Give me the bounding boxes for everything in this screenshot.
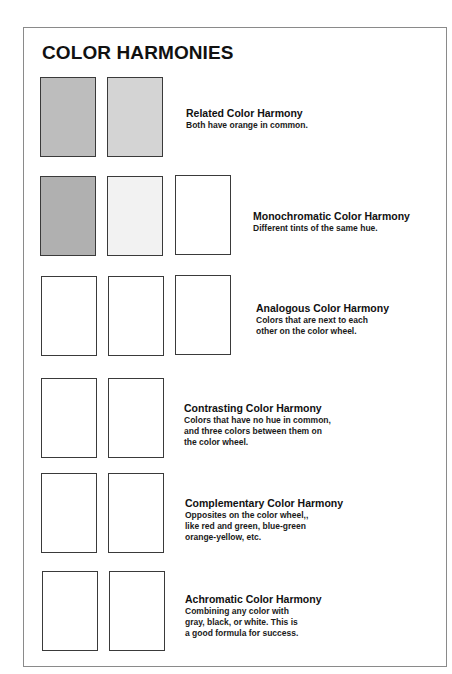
section-text: a good formula for success. [185, 628, 322, 639]
section-heading: Contrasting Color Harmony [184, 401, 331, 415]
caption: Related Color Harmony Both have orange i… [186, 106, 308, 131]
page-title: COLOR HARMONIES [42, 42, 234, 64]
section-text: the color wheel. [184, 437, 331, 448]
caption: Achromatic Color Harmony Combining any c… [185, 592, 322, 639]
color-swatch [42, 571, 98, 651]
color-swatch [108, 276, 164, 356]
color-swatch [109, 571, 165, 651]
section-text: Colors that have no hue in common, [184, 415, 331, 426]
section-text: other on the color wheel. [256, 326, 389, 337]
section-text: Opposites on the color wheel,, [185, 510, 343, 521]
color-swatch [107, 77, 163, 157]
color-swatch [108, 473, 164, 553]
color-swatch [107, 176, 163, 256]
section-text: gray, black, or white. This is [185, 617, 322, 628]
section-heading: Complementary Color Harmony [185, 496, 343, 510]
section-text: Combining any color with [185, 606, 322, 617]
caption: Analogous Color Harmony Colors that are … [256, 301, 389, 337]
section-text: orange-yellow, etc. [185, 532, 343, 543]
caption: Complementary Color Harmony Opposites on… [185, 496, 343, 543]
section-text: like red and green, blue-green [185, 521, 343, 532]
color-swatch [41, 473, 97, 553]
section-text: Colors that are next to each [256, 315, 389, 326]
color-swatch [41, 276, 97, 356]
color-swatch [40, 77, 96, 157]
section-heading: Analogous Color Harmony [256, 301, 389, 315]
color-swatch [108, 378, 164, 458]
color-swatch [40, 176, 96, 256]
section-text: Different tints of the same hue. [253, 223, 410, 234]
section-heading: Achromatic Color Harmony [185, 592, 322, 606]
section-heading: Related Color Harmony [186, 106, 308, 120]
color-swatch [175, 275, 231, 355]
section-heading: Monochromatic Color Harmony [253, 209, 410, 223]
caption: Monochromatic Color Harmony Different ti… [253, 209, 410, 234]
section-text: and three colors between them on [184, 426, 331, 437]
color-swatch [175, 175, 231, 255]
color-swatch [41, 378, 97, 458]
caption: Contrasting Color Harmony Colors that ha… [184, 401, 331, 448]
section-text: Both have orange in common. [186, 120, 308, 131]
